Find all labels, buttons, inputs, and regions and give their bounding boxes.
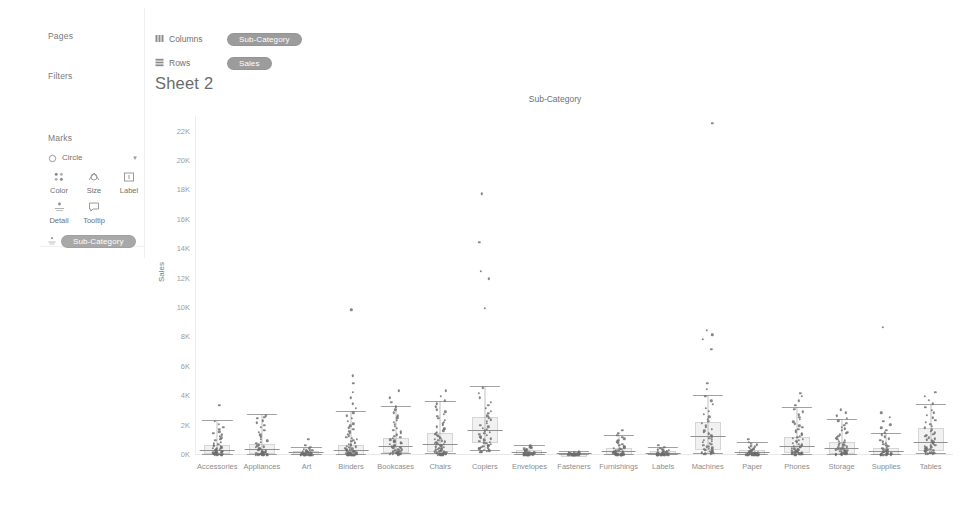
- data-point[interactable]: [352, 391, 354, 393]
- pages-panel[interactable]: Pages: [40, 26, 144, 67]
- data-point[interactable]: [489, 401, 491, 403]
- data-point[interactable]: [352, 428, 354, 430]
- data-point[interactable]: [436, 408, 438, 410]
- data-point[interactable]: [352, 403, 354, 405]
- data-point[interactable]: [934, 391, 936, 393]
- x-axis-category-label[interactable]: Phones: [784, 462, 809, 471]
- data-point[interactable]: [889, 423, 891, 425]
- data-point[interactable]: [484, 307, 486, 309]
- chevron-down-icon[interactable]: ▼: [132, 155, 138, 161]
- data-point[interactable]: [708, 415, 710, 417]
- x-axis-category-label[interactable]: Chairs: [429, 462, 451, 471]
- data-point[interactable]: [887, 437, 889, 439]
- data-point[interactable]: [352, 422, 354, 424]
- data-point[interactable]: [798, 418, 800, 420]
- x-axis-category-label[interactable]: Supplies: [872, 462, 901, 471]
- data-point[interactable]: [880, 426, 882, 428]
- x-axis-category-label[interactable]: Art: [302, 462, 312, 471]
- category-column[interactable]: Accessories: [195, 116, 240, 454]
- category-column[interactable]: Bookcases: [373, 116, 418, 454]
- data-point[interactable]: [439, 395, 441, 397]
- data-point[interactable]: [263, 424, 265, 426]
- data-point[interactable]: [621, 429, 623, 431]
- data-point[interactable]: [701, 338, 703, 340]
- data-point[interactable]: [390, 401, 392, 403]
- filters-panel[interactable]: Filters: [40, 66, 144, 129]
- data-point[interactable]: [711, 122, 713, 124]
- data-point[interactable]: [443, 413, 445, 415]
- data-point[interactable]: [657, 444, 659, 446]
- data-point[interactable]: [478, 241, 480, 243]
- data-point[interactable]: [355, 407, 357, 409]
- data-point[interactable]: [844, 428, 846, 430]
- data-point[interactable]: [218, 404, 220, 406]
- data-point[interactable]: [924, 395, 926, 397]
- data-point[interactable]: [481, 192, 483, 194]
- data-point[interactable]: [843, 424, 845, 426]
- data-point[interactable]: [706, 329, 708, 331]
- x-axis-category-label[interactable]: Envelopes: [512, 462, 547, 471]
- data-point[interactable]: [800, 395, 802, 397]
- category-column[interactable]: Paper: [730, 116, 775, 454]
- data-point[interactable]: [220, 441, 222, 443]
- columns-pill-sub-category[interactable]: Sub-Category: [227, 33, 302, 46]
- x-axis-category-label[interactable]: Bookcases: [377, 462, 414, 471]
- x-axis-category-label[interactable]: Machines: [692, 462, 724, 471]
- data-point[interactable]: [396, 433, 398, 435]
- data-point[interactable]: [489, 443, 491, 445]
- data-point[interactable]: [882, 420, 884, 422]
- x-axis-category-label[interactable]: Appliances: [244, 462, 281, 471]
- data-point[interactable]: [307, 438, 309, 440]
- data-point[interactable]: [489, 410, 491, 412]
- data-point[interactable]: [444, 389, 446, 391]
- label-button[interactable]: Label: [116, 170, 142, 195]
- x-axis-category-label[interactable]: Accessories: [197, 462, 237, 471]
- columns-shelf[interactable]: Columns Sub-Category: [155, 28, 302, 50]
- data-point[interactable]: [389, 397, 391, 399]
- rows-pill-sales[interactable]: Sales: [227, 57, 272, 70]
- data-point[interactable]: [882, 326, 884, 328]
- data-point[interactable]: [352, 375, 354, 377]
- data-point[interactable]: [488, 278, 490, 280]
- data-point[interactable]: [352, 382, 354, 384]
- category-column[interactable]: Envelopes: [507, 116, 552, 454]
- x-axis-category-label[interactable]: Copiers: [472, 462, 498, 471]
- x-axis-category-label[interactable]: Furnishings: [599, 462, 638, 471]
- data-point[interactable]: [836, 414, 838, 416]
- data-point[interactable]: [711, 333, 713, 335]
- category-column[interactable]: Fasteners: [552, 116, 597, 454]
- data-point[interactable]: [927, 399, 929, 401]
- category-column[interactable]: Supplies: [864, 116, 909, 454]
- category-column[interactable]: Labels: [641, 116, 686, 454]
- data-point[interactable]: [710, 348, 712, 350]
- data-point[interactable]: [480, 270, 482, 272]
- category-column[interactable]: Furnishings: [596, 116, 641, 454]
- data-point[interactable]: [798, 400, 800, 402]
- data-point[interactable]: [703, 413, 705, 415]
- data-point[interactable]: [925, 421, 927, 423]
- data-point[interactable]: [346, 420, 348, 422]
- data-point[interactable]: [345, 414, 347, 416]
- marks-pill-sub-category[interactable]: Sub-Category: [61, 235, 136, 248]
- tooltip-button[interactable]: Tooltip: [81, 200, 107, 225]
- data-point[interactable]: [266, 440, 268, 442]
- data-point[interactable]: [706, 388, 708, 390]
- mark-type-selector[interactable]: Circle ▼: [48, 150, 138, 165]
- data-point[interactable]: [880, 411, 882, 413]
- data-point[interactable]: [801, 434, 803, 436]
- data-point[interactable]: [934, 419, 936, 421]
- rows-shelf[interactable]: Rows Sales: [155, 52, 272, 74]
- data-point[interactable]: [798, 424, 800, 426]
- data-point[interactable]: [793, 408, 795, 410]
- data-point[interactable]: [350, 397, 352, 399]
- x-axis-category-label[interactable]: Labels: [652, 462, 674, 471]
- category-column[interactable]: Chairs: [418, 116, 463, 454]
- x-axis-category-label[interactable]: Binders: [338, 462, 363, 471]
- x-axis-category-label[interactable]: Tables: [920, 462, 942, 471]
- data-point[interactable]: [845, 422, 847, 424]
- data-point[interactable]: [885, 429, 887, 431]
- data-point[interactable]: [924, 406, 926, 408]
- data-point[interactable]: [710, 400, 712, 402]
- category-column[interactable]: Art: [284, 116, 329, 454]
- category-column[interactable]: Storage: [819, 116, 864, 454]
